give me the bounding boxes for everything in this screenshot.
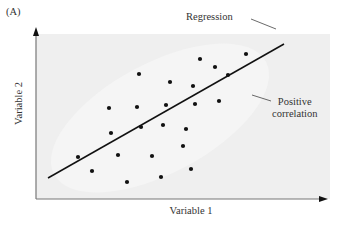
regression-annotation: Regression bbox=[186, 11, 233, 23]
data-point bbox=[109, 131, 113, 135]
positive-correlation-annotation: Positive correlation bbox=[272, 96, 317, 120]
data-point bbox=[193, 102, 197, 106]
x-axis-label: Variable 1 bbox=[140, 205, 242, 216]
data-point bbox=[76, 155, 80, 159]
data-point bbox=[168, 80, 172, 84]
data-point bbox=[139, 125, 143, 129]
data-point bbox=[189, 167, 193, 171]
data-point bbox=[213, 65, 217, 69]
positive-correlation-line2: correlation bbox=[272, 108, 317, 120]
data-point bbox=[150, 154, 154, 158]
data-point bbox=[226, 73, 230, 77]
data-point bbox=[135, 105, 139, 109]
data-point bbox=[116, 153, 120, 157]
data-point bbox=[191, 84, 195, 88]
y-axis-arrow-icon bbox=[33, 27, 39, 36]
data-point bbox=[184, 127, 188, 131]
data-point bbox=[244, 52, 248, 56]
y-axis-label: Variable 2 bbox=[13, 53, 24, 155]
data-point bbox=[137, 72, 141, 76]
regression-leader-line bbox=[251, 19, 276, 29]
data-point bbox=[159, 175, 163, 179]
data-point bbox=[217, 99, 221, 103]
data-point bbox=[125, 180, 129, 184]
positive-correlation-line1: Positive bbox=[272, 96, 317, 108]
data-point bbox=[198, 57, 202, 61]
data-point bbox=[90, 169, 94, 173]
data-point bbox=[107, 106, 111, 110]
data-point bbox=[161, 123, 165, 127]
panel-label: (A) bbox=[6, 6, 21, 17]
data-point bbox=[181, 144, 185, 148]
data-point bbox=[164, 103, 168, 107]
scatter-figure: (A) Regression Positive correlation Vari… bbox=[0, 0, 342, 228]
